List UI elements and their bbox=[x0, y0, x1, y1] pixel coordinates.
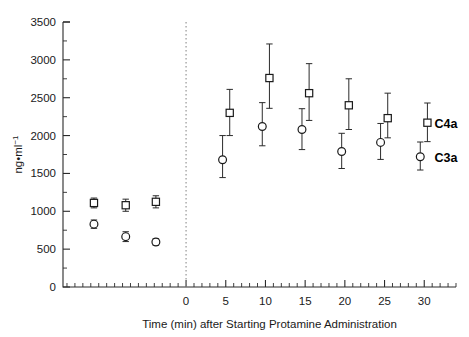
x-axis-tick-label: 10 bbox=[259, 295, 272, 307]
data-point-circle[interactable] bbox=[298, 126, 306, 134]
data-point-circle[interactable] bbox=[416, 153, 424, 161]
data-point-square[interactable] bbox=[152, 198, 159, 205]
data-point-square[interactable] bbox=[424, 119, 431, 126]
series-annotation-c4a: C4a bbox=[435, 117, 459, 131]
x-axis-tick-label: 5 bbox=[223, 295, 229, 307]
data-point-square[interactable] bbox=[266, 74, 273, 81]
x-axis-tick-label: 0 bbox=[183, 295, 189, 307]
series-c3a bbox=[90, 103, 424, 246]
y-axis-tick-label: 1500 bbox=[30, 167, 56, 179]
y-axis-tick-label: 2500 bbox=[30, 92, 56, 104]
x-axis-tick-label: 20 bbox=[338, 295, 351, 307]
series-annotation-c3a: C3a bbox=[435, 151, 459, 165]
data-point-circle[interactable] bbox=[377, 138, 385, 146]
axis-spines bbox=[63, 22, 456, 287]
data-point-square[interactable] bbox=[306, 90, 313, 97]
y-axis-tick-label: 3500 bbox=[30, 16, 56, 28]
x-axis-tick-label: 25 bbox=[378, 295, 391, 307]
data-point-circle[interactable] bbox=[338, 148, 346, 156]
y-axis-tick-label: 500 bbox=[37, 243, 56, 255]
data-point-circle[interactable] bbox=[219, 156, 227, 164]
chart-figure: 0500100015002000250030003500051015202530… bbox=[0, 0, 469, 337]
scatter-plot-canvas: 0500100015002000250030003500051015202530… bbox=[0, 0, 469, 337]
x-axis-title: Time (min) after Starting Protamine Admi… bbox=[142, 318, 397, 330]
y-axis-tick-label: 0 bbox=[50, 281, 56, 293]
data-point-square[interactable] bbox=[226, 109, 233, 116]
data-point-square[interactable] bbox=[345, 102, 352, 109]
data-point-square[interactable] bbox=[90, 199, 97, 206]
data-point-square[interactable] bbox=[384, 115, 391, 122]
y-axis-tick-label: 2000 bbox=[30, 130, 56, 142]
data-point-circle[interactable] bbox=[90, 220, 98, 228]
x-axis-tick-label: 30 bbox=[418, 295, 431, 307]
data-point-square[interactable] bbox=[122, 202, 129, 209]
x-axis-tick-label: 15 bbox=[299, 295, 312, 307]
y-axis-tick-label: 3000 bbox=[30, 54, 56, 66]
data-point-circle[interactable] bbox=[152, 238, 160, 246]
y-axis-tick-label: 1000 bbox=[30, 205, 56, 217]
data-point-circle[interactable] bbox=[122, 233, 130, 241]
y-axis-title: ng•ml−1 bbox=[11, 135, 24, 174]
data-point-circle[interactable] bbox=[258, 123, 266, 131]
